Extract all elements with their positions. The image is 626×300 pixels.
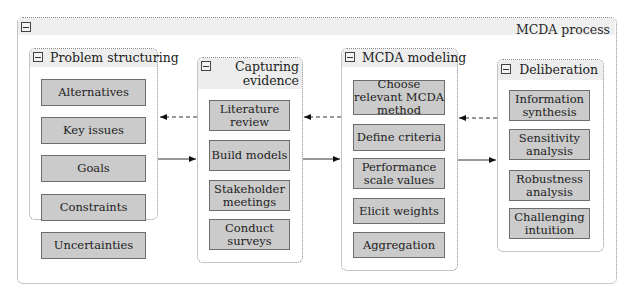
step-box: Robustness analysis [509, 170, 590, 201]
step-box: Conduct surveys [209, 219, 290, 250]
step-box: Choose relevant MCDA method [353, 80, 445, 115]
group-title: MCDA modeling [362, 51, 466, 65]
collapse-toggle-icon[interactable] [501, 64, 511, 74]
step-box: Performance scale values [353, 158, 445, 189]
group-title: Capturing evidence [235, 60, 299, 88]
group-title-line: evidence [235, 74, 299, 88]
collapse-toggle-icon[interactable] [345, 52, 355, 62]
step-box: Build models [209, 140, 290, 171]
collapse-toggle-icon[interactable] [201, 61, 211, 71]
step-box: Information synthesis [509, 90, 590, 121]
step-box: Goals [41, 155, 146, 182]
step-box: Sensitivity analysis [509, 129, 590, 160]
collapse-toggle-icon[interactable] [33, 52, 43, 62]
group-title-line: Capturing [235, 60, 299, 74]
step-box: Stakeholder meetings [209, 180, 290, 211]
step-box: Constraints [41, 194, 146, 221]
step-box: Alternatives [41, 79, 146, 106]
step-box: Challenging intuition [509, 208, 590, 239]
step-box: Literature review [209, 100, 290, 131]
step-box: Key issues [41, 117, 146, 144]
group-title: Problem structuring [50, 51, 179, 65]
step-box: Aggregation [353, 232, 445, 258]
step-box: Elicit weights [353, 198, 445, 224]
step-box: Define criteria [353, 124, 445, 151]
step-box: Uncertainties [41, 232, 146, 259]
diagram-title: MCDA process [516, 22, 610, 37]
group-title: Deliberation [519, 63, 598, 77]
collapse-toggle-icon[interactable] [21, 22, 31, 32]
